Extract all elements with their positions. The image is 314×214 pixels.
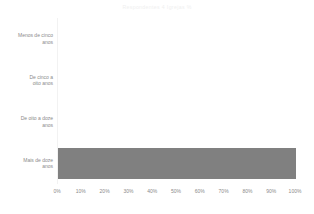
bar-row <box>58 65 296 96</box>
bar-row <box>58 148 296 179</box>
x-axis-tick-label: 10% <box>76 188 86 195</box>
chart-title: Respondentes 4 Igrejas % <box>0 4 314 11</box>
plot-area <box>57 18 296 184</box>
x-axis-tick-label: 100% <box>289 188 302 195</box>
x-axis-tick-label: 20% <box>100 188 110 195</box>
y-axis-tick-label: Menos de cincoanos <box>0 32 53 45</box>
x-axis-tick-label: 90% <box>266 188 276 195</box>
x-axis-tick-label: 0% <box>53 188 60 195</box>
x-axis-tick-label: 70% <box>219 188 229 195</box>
bar-chart: Respondentes 4 Igrejas % Menos de cincoa… <box>0 0 314 214</box>
y-axis-tick-label-line: oito anos <box>0 80 53 86</box>
y-axis-tick-label-line: anos <box>0 122 53 128</box>
bar-row <box>58 23 296 54</box>
y-axis-tick-label-line: anos <box>0 163 53 169</box>
x-axis-tick-label: 80% <box>242 188 252 195</box>
x-axis-tick-label: 50% <box>171 188 181 195</box>
y-axis-tick-label: De cinco aoito anos <box>0 74 53 87</box>
bar-row <box>58 106 296 137</box>
bar-3[interactable] <box>58 148 296 179</box>
y-axis-tick-label-line: anos <box>0 39 53 45</box>
x-axis-tick-label: 40% <box>147 188 157 195</box>
x-axis-tick-label: 30% <box>123 188 133 195</box>
y-axis-category-labels: Menos de cincoanosDe cinco aoito anosDe … <box>0 18 53 184</box>
y-axis-tick-label: Mais de dozeanos <box>0 157 53 170</box>
x-axis-tick-label: 60% <box>195 188 205 195</box>
x-axis-tick-labels: 0%10%20%30%40%50%60%70%80%90%100% <box>57 186 295 200</box>
y-axis-tick-label: De oito a dozeanos <box>0 115 53 128</box>
